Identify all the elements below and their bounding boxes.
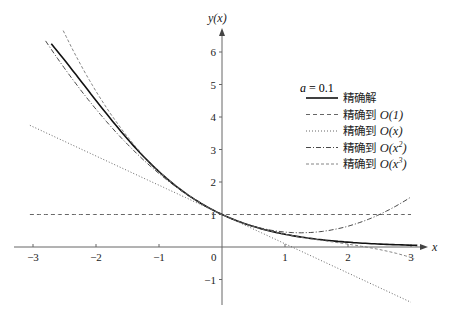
y-tick-label: 6 — [211, 46, 217, 58]
x-tick-label: −3 — [27, 251, 39, 263]
x-tick-label: 2 — [345, 251, 351, 263]
y-axis-label: y(x) — [207, 11, 227, 25]
y-tick-label: 2 — [211, 176, 217, 188]
chart-canvas: x y(x) −3−2−10123 −1123456 a = 0.1 精确解精确… — [0, 0, 453, 323]
legend-item-label: 精确到 O(x3) — [343, 156, 407, 171]
y-tick-label: 4 — [211, 111, 217, 123]
legend-item-label: 精确到 O(1) — [343, 108, 403, 122]
legend-item-label: 精确到 O(x2) — [343, 140, 407, 155]
x-axis-arrow-icon — [420, 244, 428, 250]
x-tick-label: −2 — [90, 251, 102, 263]
y-tick-label: 5 — [211, 79, 217, 91]
y-tick-label: −1 — [204, 274, 216, 286]
legend: a = 0.1 精确解精确到 O(1)精确到 O(x)精确到 O(x2)精确到 … — [300, 81, 407, 171]
x-tick-label: −1 — [153, 251, 165, 263]
x-tick-label: 1 — [282, 251, 288, 263]
y-axis-arrow-icon — [219, 28, 225, 36]
x-axis-label: x — [431, 240, 438, 254]
legend-item-label: 精确到 O(x) — [343, 124, 403, 138]
y-ticks: −1123456 — [204, 46, 222, 286]
x-tick-label: 0 — [211, 251, 217, 263]
legend-title: a = 0.1 — [300, 81, 334, 95]
y-tick-label: 3 — [211, 144, 217, 156]
legend-item-label: 精确解 — [343, 91, 377, 105]
